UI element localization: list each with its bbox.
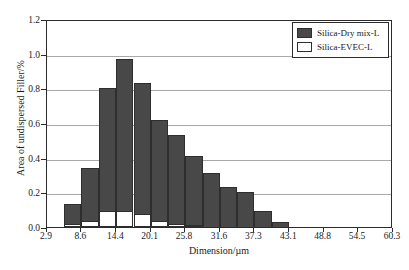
x-tick-label: 60.3 <box>384 231 401 242</box>
x-tick-label: 8.6 <box>74 231 86 242</box>
chart-figure: 0.00.20.40.60.81.01.2 2.98.614.420.125.8… <box>0 0 409 270</box>
x-axis-title: Dimension/µm <box>46 245 392 257</box>
x-tick-label: 37.3 <box>245 231 262 242</box>
x-tick-label: 54.5 <box>349 231 366 242</box>
x-tick-label: 20.1 <box>141 231 158 242</box>
x-tick-label: 48.8 <box>314 231 331 242</box>
legend-swatch-dry-mix <box>297 28 312 38</box>
legend-label-evec: Silica-EVEC-L <box>317 42 373 52</box>
chart-legend: Silica-Dry mix-L Silica-EVEC-L <box>292 22 389 58</box>
x-tick-mark <box>219 228 220 232</box>
x-tick-mark <box>150 228 151 232</box>
x-tick-mark <box>392 228 393 232</box>
x-tick-mark <box>115 228 116 232</box>
legend-item-dry-mix: Silica-Dry mix-L <box>297 26 385 40</box>
x-tick-label: 43.1 <box>280 231 297 242</box>
x-tick-mark <box>323 228 324 232</box>
legend-item-evec: Silica-EVEC-L <box>297 40 385 54</box>
x-tick-label: 31.6 <box>211 231 228 242</box>
x-tick-mark <box>80 228 81 232</box>
x-tick-label: 14.4 <box>107 231 124 242</box>
x-tick-mark <box>253 228 254 232</box>
x-tick-mark <box>357 228 358 232</box>
legend-swatch-evec <box>297 42 312 52</box>
legend-label-dry-mix: Silica-Dry mix-L <box>317 28 379 38</box>
y-axis-title: Area of undispersed Filler/% <box>15 23 27 213</box>
x-tick-label: 25.8 <box>176 231 193 242</box>
x-tick-label: 2.9 <box>40 231 52 242</box>
x-tick-mark <box>184 228 185 232</box>
x-tick-mark <box>288 228 289 232</box>
x-tick-mark <box>46 228 47 232</box>
